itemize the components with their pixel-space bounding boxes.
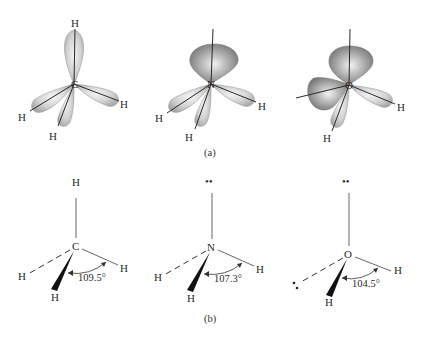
atom-label-h: H (397, 101, 405, 113)
sp3-lobe-right (74, 84, 118, 106)
lone-pair-dots: •• (205, 175, 213, 187)
lone-pair-dot (293, 282, 296, 285)
wedge-bond (187, 252, 210, 292)
atom-label-center: N (207, 241, 215, 253)
methane-structure: H C H H H 109.5° (18, 176, 128, 303)
atom-label-h: H (185, 131, 193, 143)
atom-label-h: H (120, 98, 128, 110)
atom-label-h: H (325, 296, 333, 308)
atom-label-h: H (256, 263, 264, 275)
ammonia-orbital-model: N H H H (155, 29, 266, 143)
ammonia-structure: •• N H H H 107.3° (154, 175, 264, 304)
atom-label-h: H (187, 292, 195, 304)
atom-label-h: H (258, 100, 266, 112)
atom-label-center: O (344, 248, 352, 260)
atom-label-h: H (18, 270, 26, 282)
atom-label-h: H (18, 111, 26, 123)
sp3-lobe-right (211, 84, 254, 106)
atom-label-h: H (49, 130, 57, 142)
sp3-lobe-right (349, 85, 392, 107)
orbital-diagram: H C H H H N H H H O H H (a) (0, 0, 426, 339)
wedge-bond (51, 251, 74, 291)
atom-label-center: N (207, 78, 215, 90)
atom-label-h: H (323, 132, 331, 144)
water-orbital-model: O H H (296, 29, 405, 144)
lone-pair-dot (296, 287, 299, 290)
caption-b: (b) (204, 313, 217, 325)
lone-pair-dots-top: •• (342, 175, 350, 187)
atom-label-center: O (345, 79, 353, 91)
atom-label-h: H (394, 264, 402, 276)
atom-label-center: C (72, 240, 79, 252)
bond-angle-label: 109.5° (78, 272, 106, 283)
atom-label-h: H (154, 271, 162, 283)
atom-label-h: H (72, 176, 80, 188)
atom-label-h: H (155, 112, 163, 124)
bond-angle-label: 104.5° (352, 278, 380, 289)
methane-orbital-model: H C H H H (18, 17, 128, 142)
atom-label-h: H (71, 17, 79, 29)
atom-label-h: H (51, 291, 59, 303)
water-structure: •• O H H 104.5° (293, 175, 402, 308)
caption-a: (a) (204, 147, 216, 159)
atom-label-h: H (120, 262, 128, 274)
atom-label-center: C (71, 78, 78, 90)
bond-angle-label: 107.3° (214, 273, 242, 284)
